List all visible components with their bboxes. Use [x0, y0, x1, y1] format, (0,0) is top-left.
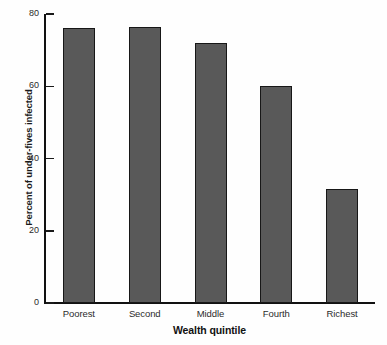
- bar-fourth: [260, 86, 292, 303]
- y-tick-label: 80: [19, 8, 39, 18]
- y-tick-label: 0: [19, 297, 39, 307]
- x-axis-title: Wealth quintile: [44, 324, 375, 336]
- bar-poorest: [63, 28, 95, 303]
- bar-second: [129, 27, 161, 303]
- y-tick-label: 60: [19, 80, 39, 90]
- y-tick-label: 40: [19, 153, 39, 163]
- x-tick-label: Richest: [302, 308, 382, 319]
- bar-middle: [195, 43, 227, 303]
- y-tick-label: 20: [19, 225, 39, 235]
- bar-richest: [326, 189, 358, 303]
- bar-chart: Percent of under-fives infected 02040608…: [0, 0, 387, 345]
- plot-area: [46, 14, 375, 303]
